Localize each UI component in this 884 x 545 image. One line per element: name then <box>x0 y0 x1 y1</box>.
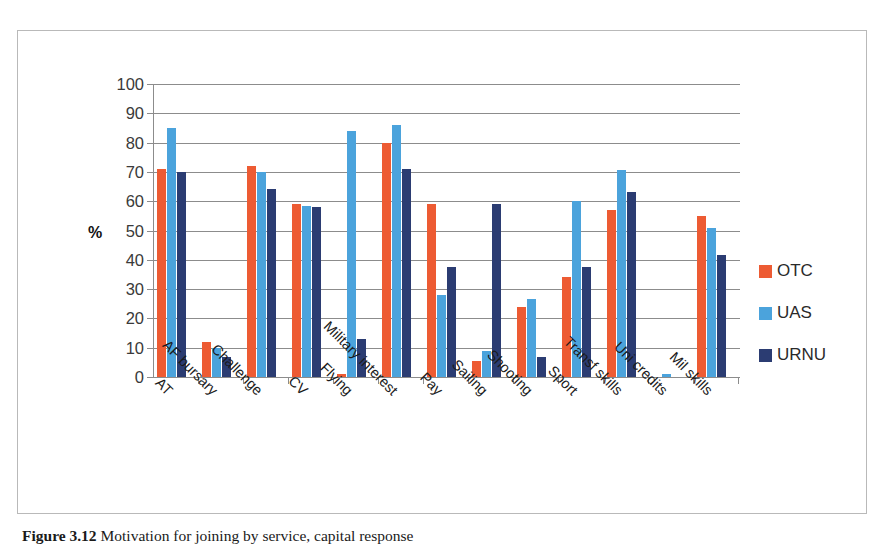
y-tick-label: 10 <box>126 338 144 357</box>
legend-label: OTC <box>777 261 813 281</box>
bar-group <box>379 84 424 377</box>
legend-item-otc[interactable]: OTC <box>759 250 869 292</box>
bar-group <box>694 84 739 377</box>
bar-uas <box>707 228 716 377</box>
y-tick-mark <box>147 377 153 378</box>
bar-group <box>424 84 469 377</box>
bar-group <box>199 84 244 377</box>
y-tick-mark <box>147 260 153 261</box>
y-tick-label: 100 <box>116 75 144 94</box>
y-tick-mark <box>147 143 153 144</box>
bar-group <box>469 84 514 377</box>
y-tick-mark <box>147 84 153 85</box>
legend-swatch-icon <box>759 307 772 320</box>
bar-uas <box>257 172 266 377</box>
legend-swatch-icon <box>759 265 772 278</box>
bar-uas <box>302 206 311 377</box>
legend-swatch-icon <box>759 349 772 362</box>
figure-caption-text: Motivation for joining by service, capit… <box>101 527 414 544</box>
bar-otc <box>562 277 571 377</box>
y-tick-mark <box>147 113 153 114</box>
bar-otc <box>382 143 391 377</box>
y-tick-mark <box>147 201 153 202</box>
y-tick-label: 70 <box>126 162 144 181</box>
bar-group <box>604 84 649 377</box>
legend-item-uas[interactable]: UAS <box>759 292 869 334</box>
bar-otc <box>292 204 301 377</box>
legend-label: URNU <box>777 345 826 365</box>
bars-layer <box>154 84 740 377</box>
legend-label: UAS <box>777 303 812 323</box>
bar-otc <box>517 307 526 377</box>
y-tick-label: 50 <box>126 221 144 240</box>
y-tick-label: 30 <box>126 280 144 299</box>
y-tick-label: 40 <box>126 250 144 269</box>
bar-group <box>154 84 199 377</box>
plot-area: 1009080706050403020100 ATAF bursaryChall… <box>153 84 740 378</box>
y-tick-label: 80 <box>126 133 144 152</box>
bar-urnu <box>267 189 276 377</box>
y-tick-mark <box>147 231 153 232</box>
figure-frame: % 1009080706050403020100 ATAF bursaryCha… <box>17 30 867 514</box>
bar-group <box>244 84 289 377</box>
y-tick-label: 90 <box>126 104 144 123</box>
x-tick-mark <box>738 377 739 384</box>
x-tick-label: AT <box>153 375 177 399</box>
y-tick-mark <box>147 172 153 173</box>
bar-urnu <box>312 207 321 377</box>
y-tick-mark <box>147 289 153 290</box>
bar-urnu <box>402 169 411 377</box>
bar-group <box>559 84 604 377</box>
bar-urnu <box>717 255 726 377</box>
bar-group <box>649 84 694 377</box>
y-tick-label: 20 <box>126 309 144 328</box>
legend-item-urnu[interactable]: URNU <box>759 334 869 376</box>
chart-legend: OTCUASURNU <box>759 250 869 376</box>
bar-otc <box>427 204 436 377</box>
y-tick-mark <box>147 348 153 349</box>
bar-uas <box>392 125 401 377</box>
bar-group <box>514 84 559 377</box>
y-axis-title: % <box>88 224 102 242</box>
y-tick-label: 0 <box>135 368 144 387</box>
figure-caption: Figure 3.12 Motivation for joining by se… <box>22 527 413 545</box>
bar-otc <box>247 166 256 377</box>
bar-uas <box>527 299 536 377</box>
bar-uas <box>437 295 446 377</box>
y-tick-label: 60 <box>126 192 144 211</box>
bar-uas <box>662 374 671 377</box>
figure-caption-number: Figure 3.12 <box>22 527 97 544</box>
bar-otc <box>697 216 706 377</box>
y-tick-mark <box>147 318 153 319</box>
